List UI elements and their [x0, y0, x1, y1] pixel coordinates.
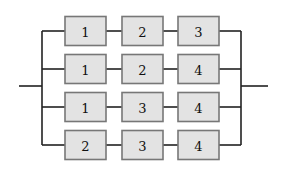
component-label: 1	[81, 101, 89, 116]
component-label: 1	[81, 25, 89, 40]
branch-row: 134	[42, 93, 241, 122]
branch-row: 234	[42, 131, 241, 160]
component-label: 4	[194, 139, 202, 154]
component-label: 1	[81, 63, 89, 78]
reliability-diagram: 123124134234	[0, 0, 283, 170]
branch-row: 124	[42, 55, 241, 84]
component-label: 3	[138, 101, 146, 116]
component-label: 4	[194, 63, 202, 78]
component-label: 4	[194, 101, 202, 116]
component-label: 3	[138, 139, 146, 154]
component-label: 2	[81, 139, 89, 154]
component-label: 2	[138, 63, 146, 78]
branch-row: 123	[42, 17, 241, 46]
component-label: 2	[138, 25, 146, 40]
component-label: 3	[194, 25, 202, 40]
